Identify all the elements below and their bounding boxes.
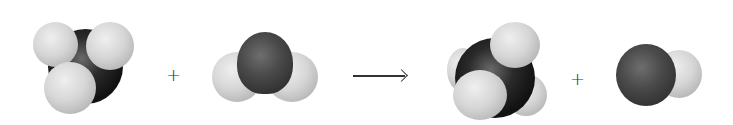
hydrogen-atom [33,22,78,67]
hydrogen-atom [453,70,507,120]
oxygen-atom [237,32,293,94]
plus-sign: + [166,66,181,84]
product-methane-molecule [445,18,550,120]
hydrogen-atom [86,22,134,70]
reaction-arrow [353,75,405,77]
reactant-methyl-molecule [30,18,140,113]
hydrogen-atom [44,62,96,114]
product-hydroxyl-molecule [616,44,706,108]
reactant-water-molecule [212,28,324,108]
hydrogen-atom [490,22,540,68]
oxygen-atom [616,44,676,106]
plus-sign: + [570,70,585,88]
